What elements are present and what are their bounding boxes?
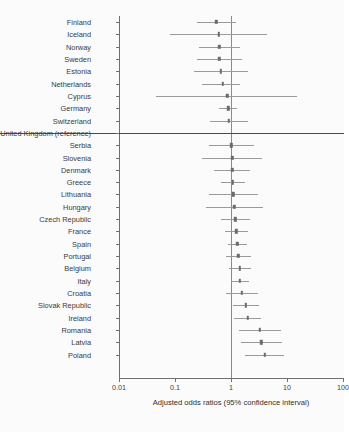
category-label: Italy (77, 276, 91, 285)
category-label: Belgium (64, 264, 91, 273)
odds-ratio-point (226, 94, 228, 98)
x-axis-label: Adjusted odds ratios (95% confidence int… (153, 398, 310, 407)
y-axis-tick (116, 108, 119, 109)
odds-ratio-point (215, 20, 217, 24)
odds-ratio-point (239, 266, 241, 270)
y-axis-tick (116, 330, 119, 331)
y-axis-tick (116, 256, 119, 257)
odds-ratio-point (217, 32, 219, 36)
x-axis-tick-label: 10 (283, 383, 291, 392)
category-label: Germany (61, 104, 91, 113)
odds-ratio-point (237, 254, 239, 258)
x-axis-tick-label: 1 (229, 383, 233, 392)
y-axis-tick (116, 47, 119, 48)
category-label: Croatia (67, 289, 91, 298)
y-axis-tick (116, 158, 119, 159)
odds-ratio-point (228, 118, 230, 122)
x-axis-tick-label: 0.1 (170, 383, 180, 392)
category-label: Romania (61, 326, 91, 335)
odds-ratio-point (232, 192, 234, 196)
odds-ratio-point (231, 168, 233, 172)
category-label: United Kingdom (reference) (0, 128, 91, 137)
y-axis-tick (116, 281, 119, 282)
odds-ratio-point (218, 44, 220, 48)
y-axis-tick (116, 219, 119, 220)
y-axis-line (119, 16, 120, 378)
y-axis-tick (116, 182, 119, 183)
y-axis-tick (116, 342, 119, 343)
x-axis-tick-label: 0.01 (112, 383, 126, 392)
y-axis-tick (116, 22, 119, 23)
y-axis-tick (116, 231, 119, 232)
y-axis-tick (116, 84, 119, 85)
y-axis-tick (116, 194, 119, 195)
category-label: Portugal (63, 252, 91, 261)
y-axis-tick (116, 244, 119, 245)
category-label: Serbia (70, 141, 91, 150)
category-label: Greece (67, 178, 91, 187)
odds-ratio-point (247, 315, 249, 319)
odds-ratio-point (232, 180, 234, 184)
odds-ratio-point (239, 279, 241, 283)
y-axis-tick (116, 71, 119, 72)
odds-ratio-point (227, 106, 229, 110)
odds-ratio-point (245, 303, 247, 307)
odds-ratio-point (218, 57, 220, 61)
y-axis-tick (116, 34, 119, 35)
y-axis-tick (116, 293, 119, 294)
y-axis-tick (116, 145, 119, 146)
category-label: Hungary (63, 202, 91, 211)
odds-ratio-point (235, 229, 237, 233)
category-label: Finland (67, 18, 91, 27)
y-axis-tick (116, 268, 119, 269)
category-label: Spain (72, 239, 91, 248)
category-label: Slovak Republic (38, 301, 91, 310)
category-label: Ireland (68, 313, 91, 322)
y-axis-tick (116, 207, 119, 208)
odds-ratio-point (234, 217, 236, 221)
odds-ratio-point (233, 205, 235, 209)
category-label: Iceland (67, 30, 91, 39)
y-axis-tick (116, 305, 119, 306)
category-label: Czech Republic (39, 215, 91, 224)
odds-ratio-point (236, 242, 238, 246)
category-label: Cyprus (68, 91, 91, 100)
category-label: France (68, 227, 91, 236)
odds-ratio-point (259, 328, 261, 332)
category-label: Poland (68, 350, 91, 359)
y-axis-tick (116, 59, 119, 60)
odds-ratio-point (260, 340, 262, 344)
x-axis-tick (119, 378, 120, 382)
x-axis-tick (231, 378, 232, 382)
x-axis-tick (343, 378, 344, 382)
category-label: Estonia (66, 67, 91, 76)
y-axis-tick (116, 355, 119, 356)
y-axis-tick (116, 170, 119, 171)
category-label: Slovenia (63, 153, 91, 162)
category-label: Lithuania (61, 190, 91, 199)
category-label: Denmark (61, 165, 91, 174)
x-axis-tick (175, 378, 176, 382)
category-label: Latvia (71, 338, 91, 347)
category-label: Sweden (64, 54, 91, 63)
category-label: Switzerland (53, 116, 91, 125)
category-label: Norway (66, 42, 91, 51)
x-axis-tick (287, 378, 288, 382)
odds-ratio-point (230, 143, 232, 147)
x-axis-tick-label: 100 (337, 383, 349, 392)
category-label: Netherlands (51, 79, 91, 88)
odds-ratio-point (220, 69, 222, 73)
odds-ratio-point (222, 81, 224, 85)
odds-ratio-point (240, 291, 242, 295)
y-axis-tick (116, 121, 119, 122)
odds-ratio-point (231, 155, 233, 159)
odds-ratio-point (264, 352, 266, 356)
y-axis-tick (116, 318, 119, 319)
y-axis-tick (116, 96, 119, 97)
y-axis-tick (116, 133, 119, 134)
